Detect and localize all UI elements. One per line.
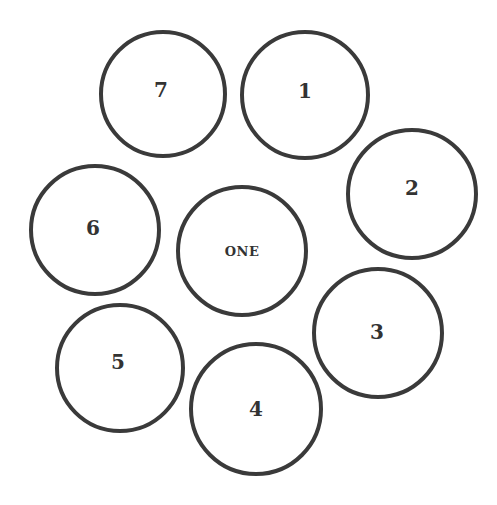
circle-1: 1 [240,30,370,160]
circle-7-label: 7 [154,80,168,100]
circle-5-label: 5 [111,352,125,372]
ring-diagram: ONE 1 2 3 4 5 6 7 [0,0,497,505]
circle-2: 2 [346,128,478,260]
center-label: ONE [225,245,260,258]
circle-7: 7 [99,30,227,158]
circle-3: 3 [312,267,444,399]
center-circle: ONE [176,185,308,317]
circle-1-label: 1 [298,81,312,101]
circle-6: 6 [29,164,161,296]
circle-2-label: 2 [405,178,419,198]
circle-4-label: 4 [249,399,263,419]
circle-3-label: 3 [370,322,384,342]
circle-6-label: 6 [86,218,100,238]
circle-4: 4 [189,342,323,476]
circle-5: 5 [55,303,185,433]
